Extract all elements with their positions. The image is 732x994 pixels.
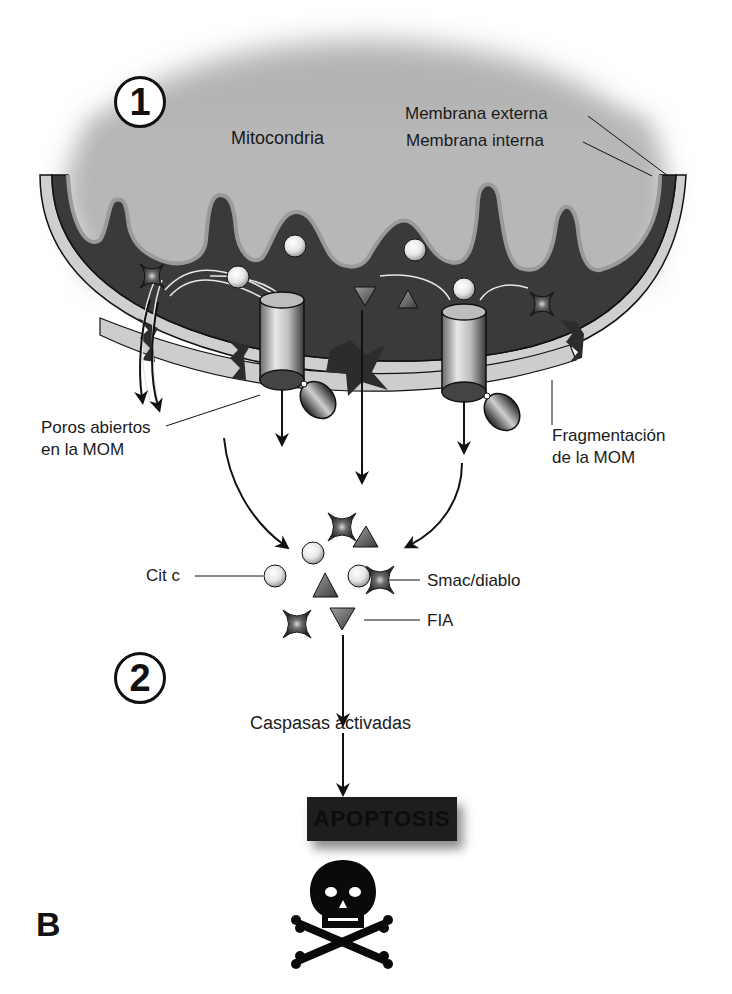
aif-icon — [330, 608, 355, 630]
apoptosis-box: APOPTOSIS — [307, 797, 457, 841]
skull-crossbones-icon — [291, 860, 393, 969]
step-2-marker: 2 — [114, 652, 166, 704]
step-1-marker: 1 — [114, 76, 166, 128]
apoptosis-label: APOPTOSIS — [314, 806, 451, 832]
label-inner-membrane: Membrana interna — [406, 131, 544, 150]
cyt-c-icon — [264, 565, 286, 587]
label-open-pores-line1: Poros abiertos — [41, 418, 151, 437]
apoptosis-mitochondrial-pathway-diagram: 1 2 Mitocondria Membrana externa Membran… — [0, 0, 732, 994]
label-fragmentation-line2: de la MOM — [552, 448, 635, 467]
label-cyt-c: Cit c — [146, 566, 180, 585]
label-aif: FIA — [427, 611, 453, 630]
diagram-artwork — [0, 0, 732, 994]
label-smac-diablo: Smac/diablo — [427, 571, 521, 590]
panel-letter: B — [36, 905, 61, 944]
label-open-pores-line2: en la MOM — [41, 440, 124, 459]
label-activated-caspases: Caspasas activadas — [250, 714, 411, 733]
label-fragmentation-line1: Fragmentación — [552, 426, 665, 445]
label-outer-membrane: Membrana externa — [405, 104, 548, 123]
released-cluster — [264, 513, 394, 638]
label-mitochondria: Mitocondria — [231, 129, 324, 148]
